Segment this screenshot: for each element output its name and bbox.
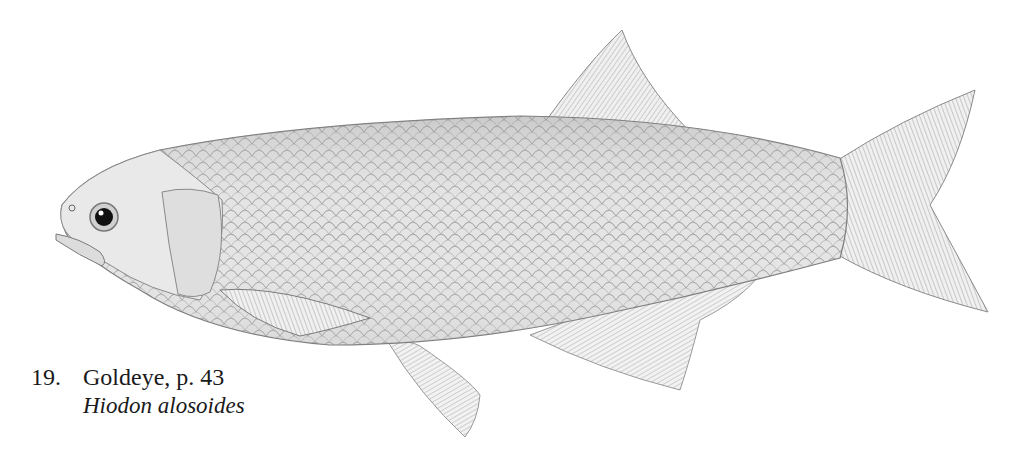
plate-caption: 19.Goldeye, p. 43 Hiodon alosoides: [31, 362, 245, 420]
common-name: Goldeye, p. 43: [83, 364, 224, 390]
pelvic-fin: [388, 342, 480, 438]
caudal-fin: [838, 90, 988, 312]
eye: [95, 208, 113, 226]
caption-title: 19.Goldeye, p. 43: [31, 362, 245, 392]
scientific-name: Hiodon alosoides: [31, 392, 245, 420]
plate-number: 19.: [31, 362, 83, 392]
